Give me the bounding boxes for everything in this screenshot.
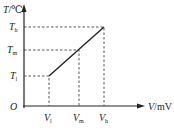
x-axis-arrow-icon <box>137 104 145 109</box>
x-tick-mid: Vm <box>73 112 84 124</box>
y-tick-mid: Tm <box>7 44 18 56</box>
x-tick-low: Vl <box>44 112 52 124</box>
guide-low <box>24 76 49 106</box>
guide-high <box>24 27 104 106</box>
origin-label: O <box>10 101 17 112</box>
chart: T/℃ V/mV O Th Tm Tl Vl Vm Vh <box>0 0 174 130</box>
guide-mid <box>24 50 79 106</box>
data-line <box>49 27 104 76</box>
y-tick-high: Th <box>9 21 18 33</box>
x-tick-high: Vh <box>99 112 108 124</box>
y-tick-low: Tl <box>10 70 18 82</box>
x-axis-label: V/mV <box>148 101 173 112</box>
y-axis-label: T/℃ <box>3 4 23 15</box>
